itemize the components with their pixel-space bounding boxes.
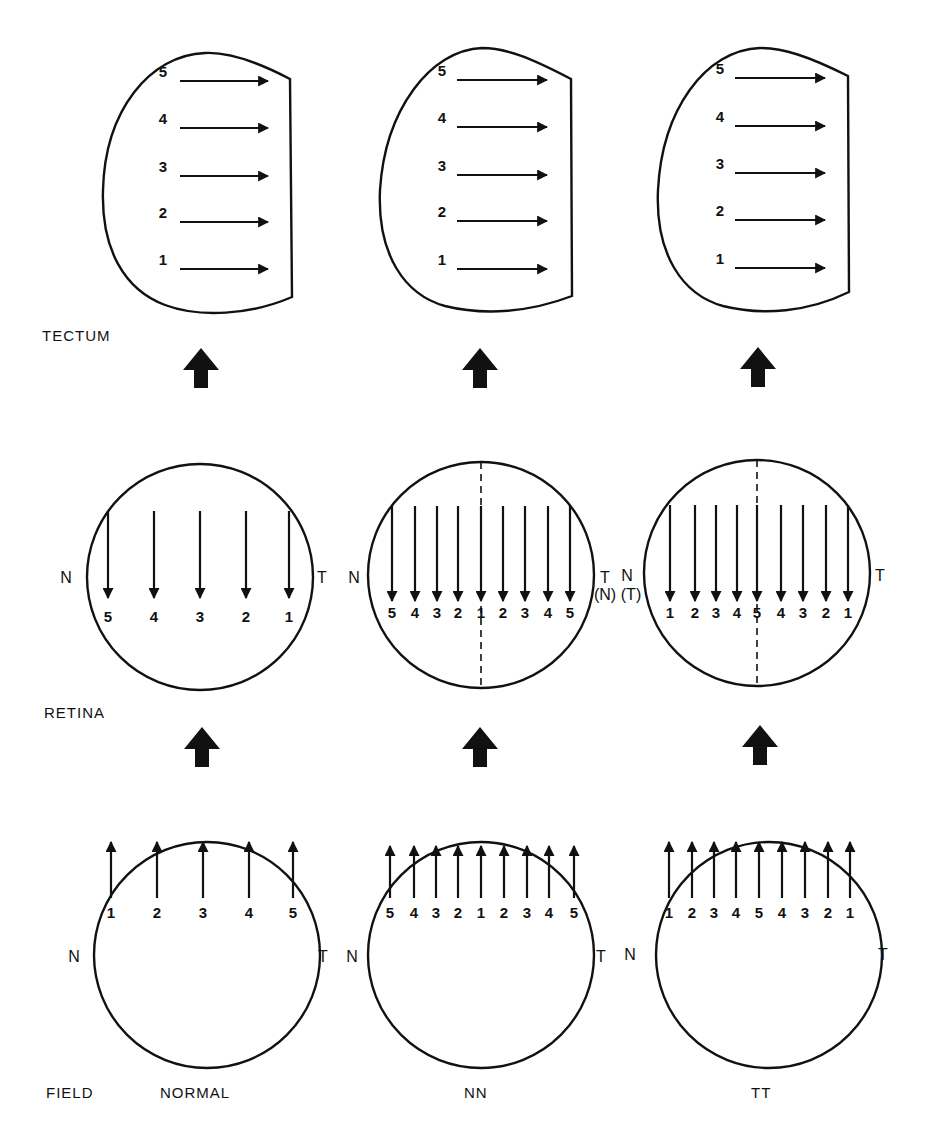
retina-position-label: 2 (454, 604, 462, 621)
tectum-position-label: 4 (716, 108, 725, 125)
field-position-label: 4 (778, 904, 787, 921)
tectum-position-label: 3 (716, 155, 724, 172)
up-block-arrow-icon (462, 348, 498, 388)
retina-position-label: 4 (150, 608, 159, 625)
tectum-position-label: 5 (716, 60, 724, 77)
up-block-arrow-icon (462, 727, 498, 767)
field-position-label: 1 (846, 904, 854, 921)
retina-position-label: 4 (777, 604, 786, 621)
tectum-tt (658, 48, 849, 311)
temporal-side-label: T (875, 567, 885, 584)
field-position-label: 5 (386, 904, 394, 921)
retina-tt-nasal-sublabel: (T) (621, 586, 641, 603)
retina-position-label: 3 (712, 604, 720, 621)
field-position-label: 5 (755, 904, 763, 921)
field-position-label: 1 (665, 904, 673, 921)
retina-position-label: 4 (733, 604, 742, 621)
up-block-arrow-icon (742, 725, 778, 765)
retina-position-label: 1 (666, 604, 674, 621)
retina-position-label: 5 (104, 608, 112, 625)
tectum-position-label: 5 (159, 63, 167, 80)
nasal-side-label: N (68, 948, 80, 965)
field-position-label: 2 (454, 904, 462, 921)
field-position-label: 1 (107, 904, 115, 921)
tectum-position-label: 1 (159, 251, 167, 268)
field-position-label: 3 (710, 904, 718, 921)
nasal-side-label: N (60, 569, 72, 586)
retina-position-label: 2 (691, 604, 699, 621)
tectum-position-label: 2 (716, 202, 724, 219)
retina-position-label: 5 (388, 604, 396, 621)
field-position-label: 3 (801, 904, 809, 921)
tectum-position-label: 1 (438, 251, 446, 268)
retina-position-label: 5 (753, 604, 761, 621)
column-label-nn: NN (464, 1084, 488, 1101)
field-position-label: 3 (199, 904, 207, 921)
column-label-normal: NORMAL (160, 1084, 230, 1101)
nasal-side-label: N (348, 569, 360, 586)
tectum-normal (103, 53, 292, 313)
field-position-label: 2 (153, 904, 161, 921)
up-block-arrow-icon (183, 348, 219, 388)
temporal-side-label: T (600, 569, 610, 586)
retina-position-label: 1 (844, 604, 852, 621)
temporal-side-label: T (318, 948, 328, 965)
field-position-label: 5 (570, 904, 578, 921)
retina-position-label: 2 (499, 604, 507, 621)
temporal-side-label: T (317, 569, 327, 586)
retinotectal-projection-diagram: TECTUM RETINA FIELD NORMAL NN TT (0, 0, 930, 1134)
field-position-label: 5 (289, 904, 297, 921)
nasal-side-label: N (346, 948, 358, 965)
temporal-side-label: T (596, 948, 606, 965)
field-position-label: 3 (432, 904, 440, 921)
tectum-position-label: 3 (159, 158, 167, 175)
row-label-tectum: TECTUM (42, 327, 111, 344)
temporal-side-label: T (878, 946, 888, 963)
retina-position-label: 1 (285, 608, 293, 625)
tectum-position-label: 5 (438, 62, 446, 79)
tectum-nn (380, 48, 572, 311)
retina-position-label: 3 (799, 604, 807, 621)
field-position-label: 2 (824, 904, 832, 921)
field-position-label: 1 (477, 904, 485, 921)
nasal-side-label: N (621, 567, 633, 584)
row-label-field: FIELD (46, 1084, 94, 1101)
field-position-label: 4 (732, 904, 741, 921)
retina-position-label: 3 (433, 604, 441, 621)
field-position-label: 4 (545, 904, 554, 921)
field-position-label: 4 (410, 904, 419, 921)
retina-nn-temporal-sublabel: (N) (594, 586, 616, 603)
retina-position-label: 2 (242, 608, 250, 625)
row-label-retina: RETINA (44, 704, 105, 721)
up-block-arrow-icon (184, 727, 220, 767)
retina-position-label: 2 (822, 604, 830, 621)
retina-position-label: 4 (411, 604, 420, 621)
retina-position-label: 5 (566, 604, 574, 621)
retina-position-label: 3 (521, 604, 529, 621)
field-position-label: 2 (688, 904, 696, 921)
nasal-side-label: N (624, 946, 636, 963)
field-tt (656, 842, 882, 1068)
field-position-label: 2 (500, 904, 508, 921)
up-block-arrow-icon (740, 347, 776, 387)
field-position-label: 4 (245, 904, 254, 921)
retina-position-label: 3 (196, 608, 204, 625)
tectum-position-label: 2 (159, 204, 167, 221)
tectum-position-label: 3 (438, 157, 446, 174)
retina-position-label: 1 (477, 604, 485, 621)
tectum-position-label: 4 (438, 109, 447, 126)
retina-position-label: 4 (544, 604, 553, 621)
tectum-position-label: 1 (716, 250, 724, 267)
tectum-position-label: 2 (438, 203, 446, 220)
field-normal (94, 842, 320, 1068)
column-label-tt: TT (751, 1084, 771, 1101)
field-position-label: 3 (523, 904, 531, 921)
tectum-position-label: 4 (159, 110, 168, 127)
